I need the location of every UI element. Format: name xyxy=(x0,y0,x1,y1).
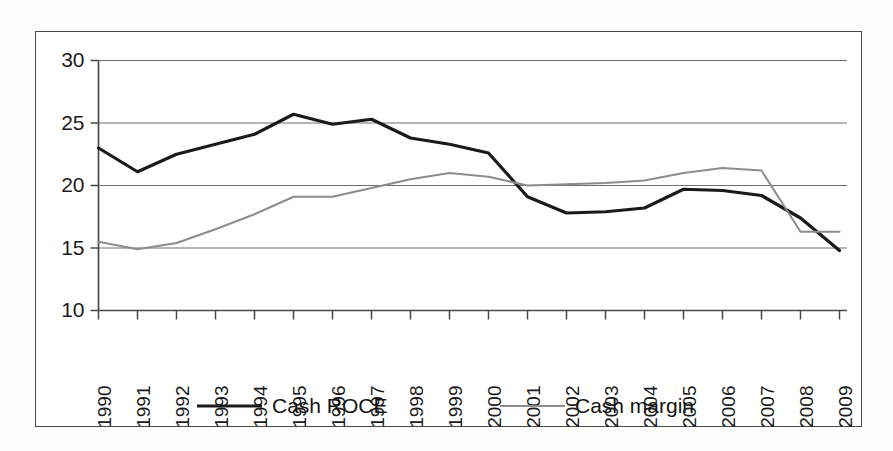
y-tick-label-30: 30 xyxy=(61,48,84,71)
x-tick-label-2009: 2009 xyxy=(835,386,856,428)
y-tick-label-25: 25 xyxy=(61,111,84,134)
x-tick-label-1990: 1990 xyxy=(94,386,115,428)
gridlines xyxy=(99,61,848,311)
line-chart-plot: 1015202530 19901991199219931994199519961… xyxy=(0,0,893,451)
x-tick-label-2008: 2008 xyxy=(796,386,817,428)
x-tick-label-2007: 2007 xyxy=(757,386,778,428)
series-line-cash-roce xyxy=(99,114,840,250)
chart-figure: 1015202530 19901991199219931994199519961… xyxy=(0,0,893,451)
x-axis xyxy=(99,311,848,320)
y-tick-label-10: 10 xyxy=(61,298,84,321)
legend-label-cash-margin: Cash margin xyxy=(575,394,694,417)
series-line-cash-margin xyxy=(99,168,840,249)
legend-label-cash-roce: Cash ROCE xyxy=(272,394,388,417)
y-tick-labels: 1015202530 xyxy=(61,48,84,321)
x-tick-label-2006: 2006 xyxy=(718,386,739,428)
x-tick-label-1992: 1992 xyxy=(172,386,193,428)
y-axis xyxy=(91,61,99,311)
x-tick-label-1999: 1999 xyxy=(445,386,466,428)
y-tick-label-15: 15 xyxy=(61,236,84,259)
y-tick-label-20: 20 xyxy=(61,173,84,196)
x-tick-label-1998: 1998 xyxy=(406,386,427,428)
data-series xyxy=(99,114,840,250)
x-tick-label-1991: 1991 xyxy=(133,386,154,428)
